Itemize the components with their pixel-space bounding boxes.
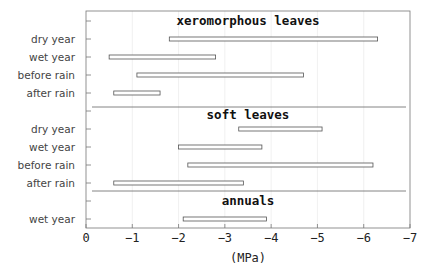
row-label: before rain	[18, 159, 75, 171]
y-axis-labels: dry yearwet yearbefore rainafter raindry…	[18, 33, 76, 225]
row-label: wet year	[29, 213, 76, 225]
y-ticks	[86, 21, 91, 219]
x-tick-label: −1	[125, 231, 139, 245]
x-tick-label: −2	[171, 231, 185, 245]
row-label: dry year	[31, 33, 76, 45]
x-tick-label: −4	[264, 231, 278, 245]
range-bar	[169, 37, 377, 41]
x-tick-label: −5	[310, 231, 324, 245]
x-axis-ticks: 0−1−2−3−4−5−6−7	[82, 224, 417, 245]
row-label: after rain	[26, 87, 75, 99]
x-tick-label: −7	[403, 231, 417, 245]
row-label: after rain	[26, 177, 75, 189]
range-bar	[114, 91, 160, 95]
x-axis-label: (MPa)	[230, 251, 266, 265]
range-bar	[239, 127, 322, 131]
range-bar	[183, 217, 266, 221]
range-bar	[188, 163, 373, 167]
group-title: soft leaves	[207, 107, 290, 122]
x-tick-label: 0	[82, 231, 89, 245]
x-tick-label: −3	[218, 231, 232, 245]
range-bar	[179, 145, 262, 149]
row-label: wet year	[29, 141, 76, 153]
water-potential-range-chart: dry yearwet yearbefore rainafter raindry…	[0, 0, 424, 267]
range-bar	[109, 55, 215, 59]
row-label: before rain	[18, 69, 75, 81]
row-label: wet year	[29, 51, 76, 63]
range-bar	[137, 73, 304, 77]
group-title: xeromorphous leaves	[177, 13, 320, 28]
x-tick-label: −6	[356, 231, 370, 245]
row-label: dry year	[31, 123, 76, 135]
group-title: annuals	[222, 193, 275, 208]
group-titles: xeromorphous leavessoft leavesannuals	[177, 13, 320, 208]
range-bar	[114, 181, 244, 185]
